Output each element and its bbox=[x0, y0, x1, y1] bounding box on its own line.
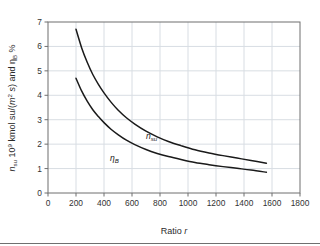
x-tick-label: 800 bbox=[153, 198, 167, 208]
chart-svg: 020040060080010001200140016001800 012345… bbox=[0, 0, 320, 246]
x-tick-label: 1000 bbox=[179, 198, 198, 208]
bottom-divider-rule bbox=[0, 243, 320, 244]
y-tick-label: 2 bbox=[37, 139, 42, 149]
x-tick-label: 1400 bbox=[235, 198, 254, 208]
chart-figure: 020040060080010001200140016001800 012345… bbox=[0, 0, 320, 246]
x-tick-label: 400 bbox=[97, 198, 111, 208]
y-tick-label: 6 bbox=[37, 41, 42, 51]
x-tick-label: 600 bbox=[125, 198, 139, 208]
x-tick-label: 1200 bbox=[207, 198, 226, 208]
y-tick-label: 5 bbox=[37, 66, 42, 76]
y-tick-label: 7 bbox=[37, 17, 42, 27]
x-tick-label: 200 bbox=[69, 198, 83, 208]
y-tick-label: 4 bbox=[37, 90, 42, 100]
y-tick-label: 0 bbox=[37, 188, 42, 198]
y-tick-label: 3 bbox=[37, 115, 42, 125]
y-axis-title: nsu 109 kmol su/(m2 s) and ηB % bbox=[6, 44, 18, 171]
x-axis-title: Ratio r bbox=[161, 226, 189, 236]
x-tick-label: 1800 bbox=[291, 198, 310, 208]
x-tick-label: 1600 bbox=[263, 198, 282, 208]
x-tick-label: 0 bbox=[46, 198, 51, 208]
y-tick-label: 1 bbox=[37, 164, 42, 174]
